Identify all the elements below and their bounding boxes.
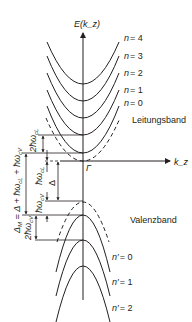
hbar-omega-cV-label: ħωcV — [34, 193, 45, 213]
two-hbar-omega-cV-label: 2ħωcV — [23, 215, 34, 241]
svg-text:n′= 0: n′= 0 — [112, 252, 132, 262]
valence-level-labels: n′= 0 n′= 1 n′= 2 — [112, 252, 132, 313]
svg-text:n= 0: n= 0 — [124, 98, 143, 108]
svg-text:n′= 1: n′= 1 — [112, 277, 132, 287]
gamma-point-label: Γ — [86, 163, 92, 173]
landau-level-diagram: E(k_z) k_z Γ n= 4 n= 3 n= 2 n= 1 n= 0 Le… — [0, 0, 192, 322]
delta-m-label: ΔM = Δ + ħωcL + ħωcV — [12, 147, 23, 234]
conduction-band-label: Leitungsband — [132, 115, 186, 125]
svg-text:n′= 2: n′= 2 — [112, 303, 132, 313]
conduction-level-labels: n= 4 n= 3 n= 2 n= 1 n= 0 — [124, 33, 143, 108]
energy-axis-label: E(k_z) — [74, 19, 100, 29]
valence-band-label: Valenzband — [130, 215, 177, 225]
svg-text:n= 1: n= 1 — [124, 85, 143, 95]
svg-text:n= 4: n= 4 — [124, 33, 143, 43]
k-axis-label: k_z — [174, 157, 189, 167]
svg-text:n= 3: n= 3 — [124, 51, 143, 61]
hbar-omega-cL-label: ħωcL — [34, 167, 45, 185]
delta-label: Δ — [47, 180, 57, 186]
svg-text:n= 2: n= 2 — [124, 68, 143, 78]
two-hbar-omega-cL-label: 2ħωcL — [28, 129, 39, 153]
